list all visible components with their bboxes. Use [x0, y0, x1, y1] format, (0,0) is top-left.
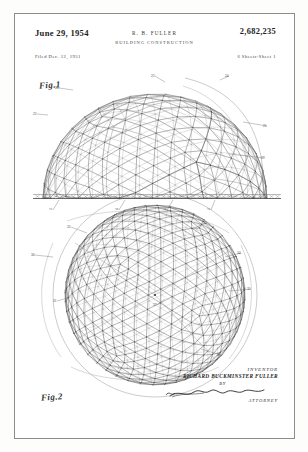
svg-text:36: 36	[217, 353, 221, 357]
svg-text:20: 20	[55, 86, 59, 90]
patent-page: June 29, 1954 R. B. FULLER BUILDING CONS…	[0, 0, 308, 452]
svg-text:32: 32	[67, 225, 71, 229]
signature-block: INVENTOR RICHARD BUCKMINSTER FULLER BY A…	[156, 367, 278, 404]
svg-text:23: 23	[151, 74, 155, 78]
svg-text:31: 31	[53, 299, 57, 303]
svg-text:22: 22	[33, 112, 37, 116]
svg-text:33: 33	[203, 221, 207, 225]
filing-date: Filed Dec. 12, 1951	[35, 54, 81, 59]
svg-text:25: 25	[263, 124, 267, 128]
svg-text:30: 30	[31, 253, 35, 257]
inventor-full-name: RICHARD BUCKMINSTER FULLER	[156, 373, 278, 380]
figure-1-geodesic-dome: 20232425272221262821	[15, 70, 296, 210]
patent-number: 2,682,235	[240, 27, 276, 36]
svg-text:37: 37	[153, 303, 157, 307]
svg-text:35: 35	[247, 287, 251, 291]
patent-header: June 29, 1954 R. B. FULLER BUILDING CONS…	[15, 14, 294, 72]
patent-title: BUILDING CONSTRUCTION	[15, 40, 294, 45]
sheet-count: 6 Sheets-Sheet 1	[237, 54, 276, 59]
svg-text:34: 34	[237, 251, 241, 255]
svg-text:27: 27	[261, 156, 265, 160]
page-border-frame: June 29, 1954 R. B. FULLER BUILDING CONS…	[14, 13, 295, 439]
attorney-signature	[156, 386, 278, 399]
svg-text:24: 24	[225, 74, 229, 78]
